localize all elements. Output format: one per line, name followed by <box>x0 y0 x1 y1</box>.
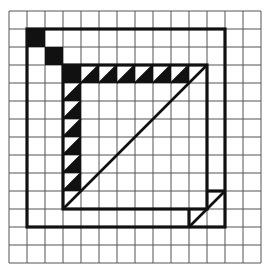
black-cell <box>45 47 63 65</box>
filled-cells <box>27 29 81 83</box>
grid-diagram <box>0 0 273 271</box>
black-cell <box>27 29 45 47</box>
shaded-triangles <box>63 65 189 191</box>
black-cell <box>63 65 81 83</box>
